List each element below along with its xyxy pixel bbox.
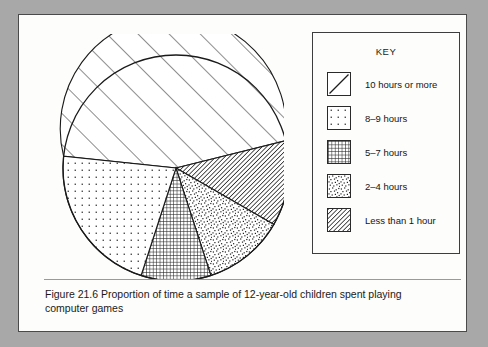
legend-item-5-7-hours: 5–7 hours	[327, 135, 459, 169]
swatch-dense-stipple-icon	[327, 174, 351, 198]
legend-label-8-9-hours: 8–9 hours	[365, 113, 407, 124]
legend-list: 10 hours or more 8–9 hours	[313, 67, 459, 237]
swatch-single-diagonal-line-icon	[327, 72, 351, 96]
swatch-sparse-dots-icon	[327, 106, 351, 130]
legend-key-box: KEY 10 hours or more	[312, 32, 460, 254]
legend-title: KEY	[313, 46, 459, 57]
pie-slice-10-hours-or-more	[60, 34, 284, 168]
pie-chart-svg	[44, 34, 284, 279]
swatch-dense-diagonal-stripes-icon	[327, 208, 351, 232]
legend-label-5-7-hours: 5–7 hours	[365, 147, 407, 158]
caption-divider	[44, 279, 461, 280]
figure-caption: Figure 21.6 Proportion of time a sample …	[45, 287, 445, 315]
legend-item-2-4-hours: 2–4 hours	[327, 169, 459, 203]
swatch-cross-hatch-grid-icon	[327, 140, 351, 164]
legend-label-10-hours-or-more: 10 hours or more	[365, 79, 437, 90]
legend-label-less-than-1-hour: Less than 1 hour	[365, 215, 436, 226]
figure-root: KEY 10 hours or more	[0, 0, 488, 347]
figure-panel: KEY 10 hours or more	[18, 14, 467, 332]
legend-item-10-hours-or-more: 10 hours or more	[327, 67, 459, 101]
pie-chart	[44, 34, 284, 279]
legend-item-less-than-1-hour: Less than 1 hour	[327, 203, 459, 237]
legend-item-8-9-hours: 8–9 hours	[327, 101, 459, 135]
legend-label-2-4-hours: 2–4 hours	[365, 181, 407, 192]
